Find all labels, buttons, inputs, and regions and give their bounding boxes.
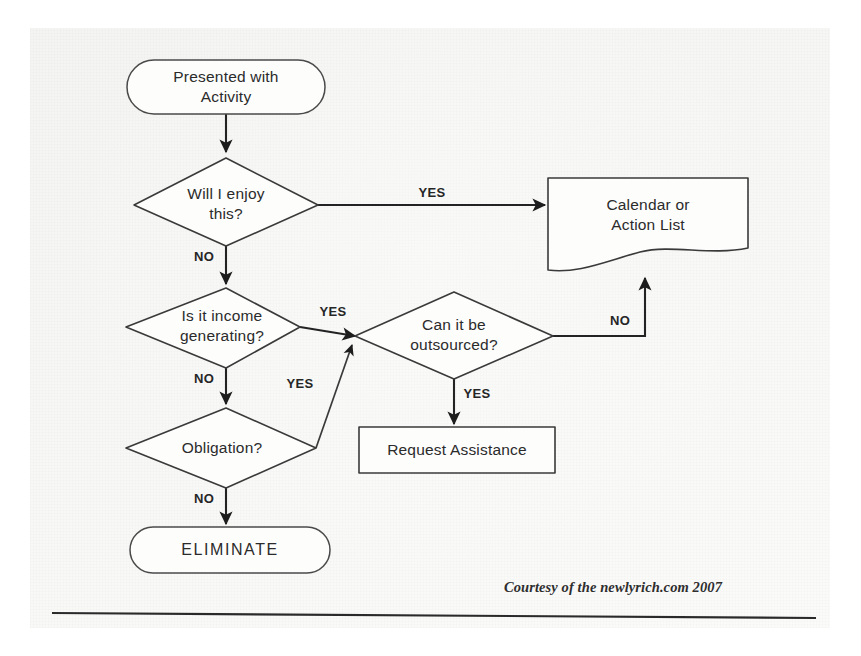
edge-outsource-no-to-calendar: NO [553, 278, 645, 336]
edge-label-income-yes: YES [320, 304, 347, 319]
node-calendar-label-line1: Calendar or [606, 196, 689, 213]
screenshot-root: YES NO YES NO YES NO NO [0, 0, 861, 656]
edge-label-outsource-no: NO [610, 313, 630, 328]
node-decision-is-it-income-generating[interactable]: Is it income generating? [126, 288, 300, 368]
node-start-label-line2: Activity [201, 88, 252, 105]
node-income-label-line1: Is it income [182, 307, 263, 324]
node-obligation-label: Obligation? [182, 439, 263, 456]
node-outsource-label-line2: outsourced? [410, 336, 498, 353]
page-bottom-rule [52, 613, 816, 618]
node-income-label-line2: generating? [180, 327, 264, 344]
credit-line: Courtesy of the newlyrich.com 2007 [504, 579, 723, 595]
node-decision-obligation[interactable]: Obligation? [126, 408, 316, 488]
edge-outsource-yes-to-request: YES [454, 378, 490, 424]
edge-income-yes-to-outsource: YES [300, 304, 355, 336]
edge-label-outsource-yes: YES [464, 386, 491, 401]
node-document-calendar-or-action-list[interactable]: Calendar or Action List [548, 178, 748, 271]
node-process-request-assistance[interactable]: Request Assistance [359, 427, 555, 473]
node-eliminate-label: ELIMINATE [181, 541, 279, 558]
flowchart-canvas: YES NO YES NO YES NO NO [0, 0, 861, 656]
node-calendar-label-line2: Action List [611, 216, 685, 233]
node-decision-will-i-enjoy-this[interactable]: Will I enjoy this? [134, 158, 318, 246]
edge-obligation-yes-to-outsource: YES [287, 345, 352, 448]
edge-enjoy-yes-to-calendar: YES [318, 185, 545, 205]
edge-enjoy-no-to-income: NO [194, 245, 226, 284]
edge-obligation-no-to-eliminate: NO [194, 487, 226, 524]
edge-income-no-to-obligation: NO [194, 367, 226, 404]
edge-label-enjoy-no: NO [194, 249, 214, 264]
node-outsource-label-line1: Can it be [422, 316, 486, 333]
edge-label-obligation-yes: YES [287, 376, 314, 391]
node-request-label: Request Assistance [387, 441, 527, 458]
edge-label-enjoy-yes: YES [419, 185, 446, 200]
node-enjoy-label-line1: Will I enjoy [187, 185, 264, 202]
node-start-label-line1: Presented with [173, 68, 278, 85]
node-start-presented-with-activity[interactable]: Presented with Activity [127, 60, 325, 114]
edge-label-obligation-no: NO [194, 491, 214, 506]
node-decision-can-it-be-outsourced[interactable]: Can it be outsourced? [355, 292, 553, 379]
edge-label-income-no: NO [194, 371, 214, 386]
node-end-eliminate[interactable]: ELIMINATE [130, 527, 330, 573]
node-enjoy-label-line2: this? [209, 205, 243, 222]
